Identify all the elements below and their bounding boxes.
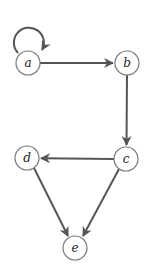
node-a: a bbox=[16, 51, 40, 75]
node-b-label: b bbox=[123, 56, 131, 70]
node-c: c bbox=[114, 147, 138, 171]
edge-b-c bbox=[127, 75, 128, 145]
edge-d-e bbox=[34, 168, 68, 236]
directed-graph: a b c d e bbox=[0, 0, 151, 268]
node-b: b bbox=[115, 51, 139, 75]
node-d: d bbox=[15, 146, 39, 170]
node-e-label: e bbox=[71, 241, 78, 255]
edge-c-d bbox=[41, 158, 114, 159]
edge-c-e bbox=[83, 169, 119, 236]
edge-a-a-self-loop bbox=[14, 28, 44, 53]
node-d-label: d bbox=[23, 151, 31, 165]
node-e: e bbox=[63, 236, 87, 260]
node-c-label: c bbox=[123, 152, 130, 166]
node-a-label: a bbox=[24, 56, 31, 70]
